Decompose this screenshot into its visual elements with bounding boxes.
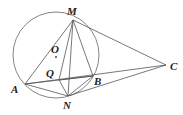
label-o: O: [51, 44, 59, 55]
label-q: Q: [46, 68, 54, 79]
label-a: A: [11, 84, 18, 95]
segment-nc: [68, 65, 166, 96]
diagram-canvas: [0, 0, 183, 115]
geometry-diagram: M O Q A B N C: [0, 0, 183, 115]
label-c: C: [170, 61, 177, 72]
label-m: M: [67, 6, 77, 17]
center-point-o: [55, 56, 57, 58]
circle-o: [13, 12, 99, 98]
segment-nb: [68, 76, 93, 96]
label-n: N: [63, 100, 71, 111]
label-b: B: [94, 76, 101, 87]
segment-qb: [59, 76, 93, 80]
